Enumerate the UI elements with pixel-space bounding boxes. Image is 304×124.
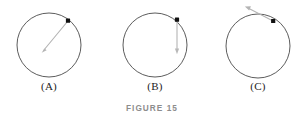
panel-label-b: (B) <box>135 80 175 92</box>
panel-label-a: (A) <box>29 80 69 92</box>
dot-b <box>175 18 179 22</box>
dot-a <box>66 19 70 23</box>
circle-c <box>226 14 290 78</box>
arrow-c-head <box>245 6 251 10</box>
arrow-b-head <box>175 49 179 55</box>
arrow-a-shaft <box>44 22 68 51</box>
arrow-a <box>42 22 68 53</box>
arrow-c <box>245 6 274 21</box>
circle-a <box>17 13 81 77</box>
panel-c-graphic <box>226 6 290 78</box>
dot-c <box>271 19 275 23</box>
panel-b-graphic <box>123 13 187 77</box>
panel-label-c: (C) <box>238 80 278 92</box>
arrow-b <box>175 22 179 55</box>
figure-caption: FIGURE 15 <box>12 103 292 113</box>
panel-a-graphic <box>17 13 81 77</box>
figure-container: (A) (B) (C) FIGURE 15 <box>0 0 304 124</box>
